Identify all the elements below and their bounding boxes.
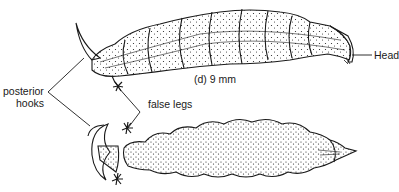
false-leg-icon <box>112 173 123 185</box>
larva-diagram <box>0 0 399 192</box>
posterior-hooks-label-line1: posterior <box>3 85 44 97</box>
caption-label: (d) 9 mm <box>194 73 236 85</box>
posterior-hooks-label-line2: hooks <box>16 97 44 109</box>
ventral-larva <box>88 119 356 185</box>
head-label: Head <box>374 49 399 61</box>
false-legs-label: false legs <box>148 98 192 110</box>
